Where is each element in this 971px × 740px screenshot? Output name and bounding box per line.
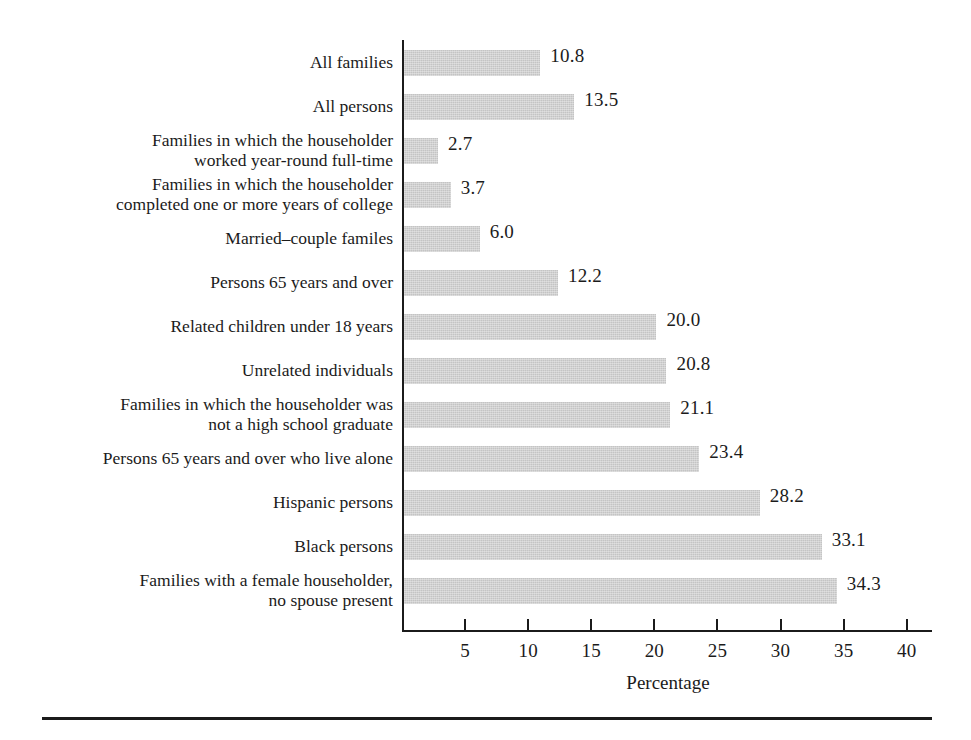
bar-value-label: 23.4 [709, 441, 743, 463]
x-axis-tick [527, 619, 529, 630]
bar-value-label: 28.2 [770, 485, 804, 507]
category-label: Families in which the householder comple… [0, 174, 393, 214]
bar [404, 314, 656, 340]
category-label: Married–couple familes [0, 228, 393, 248]
bar-value-label: 13.5 [584, 89, 618, 111]
bar [404, 94, 574, 120]
category-label: All persons [0, 96, 393, 116]
category-label: Black persons [0, 536, 393, 556]
x-axis-tick [653, 619, 655, 630]
bar [404, 50, 540, 76]
bar-row: Black persons33.1 [0, 525, 971, 569]
bar-row: Families in which the householder was no… [0, 393, 971, 437]
bar-value-label: 21.1 [680, 397, 714, 419]
bar [404, 578, 837, 604]
bar [404, 446, 699, 472]
bar-row: Married–couple familes6.0 [0, 217, 971, 261]
poverty-rate-bar-chart: All families10.8All persons13.5Families … [0, 0, 971, 740]
bar-value-label: 12.2 [568, 265, 602, 287]
x-axis-tick-label: 10 [498, 640, 558, 662]
bar [404, 270, 558, 296]
x-axis-tick-label: 5 [435, 640, 495, 662]
x-axis-title: Percentage [568, 672, 768, 694]
bar-row: All families10.8 [0, 41, 971, 85]
bar-row: Families in which the householder comple… [0, 173, 971, 217]
bar-container [404, 182, 451, 208]
bar-row: Related children under 18 years20.0 [0, 305, 971, 349]
category-label: Families with a female householder, no s… [0, 570, 393, 610]
bar [404, 358, 666, 384]
bar-container [404, 314, 656, 340]
category-label: Families in which the householder worked… [0, 130, 393, 170]
bar-value-label: 2.7 [448, 133, 472, 155]
x-axis-tick-label: 40 [877, 640, 937, 662]
bar [404, 534, 822, 560]
bar-value-label: 34.3 [847, 573, 881, 595]
bar-container [404, 50, 540, 76]
bar-container [404, 534, 822, 560]
bar-container [404, 402, 670, 428]
bar-value-label: 6.0 [490, 221, 514, 243]
bar [404, 490, 760, 516]
bar-row: Families in which the householder worked… [0, 129, 971, 173]
bar-value-label: 3.7 [461, 177, 485, 199]
bar [404, 138, 438, 164]
x-axis-tick-label: 25 [687, 640, 747, 662]
category-label: Related children under 18 years [0, 316, 393, 336]
category-label: All families [0, 52, 393, 72]
bar [404, 402, 670, 428]
x-axis-tick [780, 619, 782, 630]
bar [404, 182, 451, 208]
category-label: Families in which the householder was no… [0, 394, 393, 434]
bar-container [404, 226, 480, 252]
bar [404, 226, 480, 252]
category-label: Persons 65 years and over who live alone [0, 448, 393, 468]
x-axis-tick [716, 619, 718, 630]
bar-container [404, 446, 699, 472]
footer-rule [42, 717, 932, 720]
bar-value-label: 20.0 [666, 309, 700, 331]
bar-row: Families with a female householder, no s… [0, 569, 971, 613]
category-label: Hispanic persons [0, 492, 393, 512]
bar-row: Persons 65 years and over who live alone… [0, 437, 971, 481]
bar-container [404, 490, 760, 516]
x-axis-tick [464, 619, 466, 630]
bar-row: All persons13.5 [0, 85, 971, 129]
x-axis-tick-label: 30 [751, 640, 811, 662]
category-label: Unrelated individuals [0, 360, 393, 380]
bar-value-label: 33.1 [832, 529, 866, 551]
bar-row: Persons 65 years and over12.2 [0, 261, 971, 305]
category-label: Persons 65 years and over [0, 272, 393, 292]
bar-value-label: 20.8 [676, 353, 710, 375]
bar-row: Unrelated individuals20.8 [0, 349, 971, 393]
x-axis-tick-label: 35 [814, 640, 874, 662]
bar-container [404, 358, 666, 384]
x-axis-tick [843, 619, 845, 630]
bar-container [404, 94, 574, 120]
value-axis-line [402, 630, 932, 632]
bar-container [404, 138, 438, 164]
x-axis-tick [590, 619, 592, 630]
x-axis-tick-label: 20 [624, 640, 684, 662]
bar-value-label: 10.8 [550, 45, 584, 67]
x-axis-tick [906, 619, 908, 630]
x-axis-tick-label: 15 [561, 640, 621, 662]
bar-container [404, 578, 837, 604]
bar-container [404, 270, 558, 296]
bar-row: Hispanic persons28.2 [0, 481, 971, 525]
